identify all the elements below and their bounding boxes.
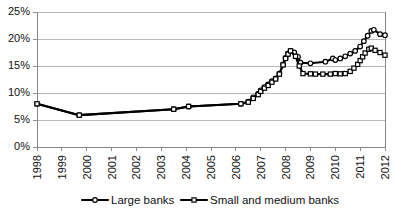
x-tick-label: 2002 bbox=[130, 155, 142, 179]
x-tick-label: 2000 bbox=[81, 155, 93, 179]
x-tick-label: 2008 bbox=[280, 155, 292, 179]
x-tick-label: 2012 bbox=[379, 155, 391, 179]
data-point-marker bbox=[308, 61, 313, 66]
y-tick-label: 15% bbox=[8, 59, 30, 71]
plot-background bbox=[37, 12, 385, 147]
data-point-marker bbox=[281, 63, 285, 67]
data-point-marker bbox=[372, 28, 377, 33]
y-tick-label: 20% bbox=[8, 32, 30, 44]
x-tick-label: 2006 bbox=[230, 155, 242, 179]
x-tick-label: 2003 bbox=[155, 155, 167, 179]
y-axis-tick-labels: 0%5%10%15%20%25% bbox=[8, 5, 30, 152]
data-point-marker bbox=[333, 71, 337, 75]
data-point-marker bbox=[383, 53, 387, 57]
data-point-marker bbox=[35, 102, 39, 106]
data-point-marker bbox=[301, 71, 305, 75]
data-point-marker bbox=[293, 54, 297, 58]
data-point-marker bbox=[308, 72, 312, 76]
y-tick-label: 0% bbox=[14, 140, 30, 152]
data-point-marker bbox=[378, 50, 382, 54]
data-point-marker bbox=[187, 104, 191, 108]
data-point-marker bbox=[313, 72, 317, 76]
legend-item-1[interactable]: Large banks bbox=[82, 194, 175, 206]
data-point-marker bbox=[251, 96, 255, 100]
data-point-marker bbox=[338, 56, 343, 61]
x-tick-label: 2005 bbox=[205, 155, 217, 179]
data-point-marker bbox=[373, 48, 377, 52]
data-point-marker bbox=[333, 58, 338, 63]
data-point-marker bbox=[323, 59, 328, 64]
data-point-marker bbox=[338, 72, 342, 76]
x-tick-label: 2011 bbox=[354, 155, 366, 179]
legend-label-1: Large banks bbox=[111, 194, 175, 206]
y-tick-label: 10% bbox=[8, 86, 30, 98]
data-point-marker bbox=[277, 72, 281, 76]
data-point-marker bbox=[321, 72, 325, 76]
data-point-marker bbox=[246, 100, 250, 104]
x-tick-label: 2010 bbox=[329, 155, 341, 179]
data-point-marker bbox=[353, 49, 358, 54]
x-tick-label: 2009 bbox=[304, 155, 316, 179]
legend-label-2: Small and medium banks bbox=[210, 194, 339, 206]
legend-marker-2 bbox=[192, 198, 196, 202]
data-point-marker bbox=[77, 113, 81, 117]
x-tick-label: 2004 bbox=[180, 155, 192, 179]
data-point-marker bbox=[365, 33, 370, 38]
data-point-marker bbox=[172, 107, 176, 111]
data-point-marker bbox=[343, 71, 347, 75]
x-tick-label: 1998 bbox=[31, 155, 43, 179]
data-point-marker bbox=[348, 51, 353, 56]
chart-figure: 0%5%10%15%20%25% 19981999200020012002200… bbox=[0, 0, 395, 222]
data-point-marker bbox=[239, 102, 243, 106]
data-point-marker bbox=[283, 56, 287, 60]
data-point-marker bbox=[297, 64, 301, 68]
chart-legend: Large banksSmall and medium banks bbox=[82, 194, 339, 206]
data-point-marker bbox=[383, 33, 388, 38]
x-tick-label: 2001 bbox=[106, 155, 118, 179]
y-tick-label: 5% bbox=[14, 113, 30, 125]
legend-marker-1 bbox=[93, 198, 98, 203]
data-point-marker bbox=[288, 49, 292, 53]
y-tick-label: 25% bbox=[8, 5, 30, 17]
data-point-marker bbox=[378, 32, 383, 37]
line-chart-canvas: 0%5%10%15%20%25% 19981999200020012002200… bbox=[0, 0, 395, 222]
x-tick-label: 2007 bbox=[255, 155, 267, 179]
data-point-marker bbox=[358, 44, 363, 49]
data-point-marker bbox=[343, 54, 348, 59]
x-axis-tick-labels: 1998199920002001200220032004200520062007… bbox=[31, 147, 391, 179]
data-point-marker bbox=[328, 72, 332, 76]
data-point-marker bbox=[274, 77, 278, 81]
x-tick-label: 1999 bbox=[56, 155, 68, 179]
data-point-marker bbox=[362, 39, 367, 44]
legend-item-2[interactable]: Small and medium banks bbox=[181, 194, 339, 206]
